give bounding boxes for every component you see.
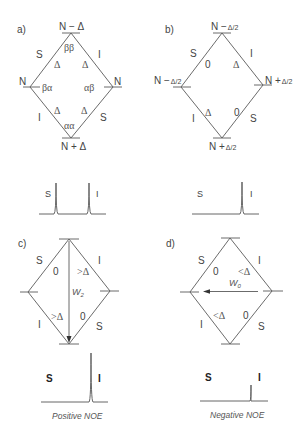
- peak-label-s: S: [205, 372, 212, 383]
- caption-positive-noe: Positive NOE: [52, 411, 103, 421]
- panel-c: c) W2 S I I S 0 >Δ >Δ 0 S I Positive NOE: [18, 238, 119, 421]
- edge-upper-left-rate: 0: [205, 59, 211, 70]
- energy-top: N −Δ/2: [211, 21, 238, 32]
- panel-a: a) N − Δ N N N + Δ ββ βα αβ αα S I I S Δ…: [17, 21, 122, 214]
- caption-negative-noe: Negative NOE: [210, 410, 265, 420]
- edge-lower-right-rate: 0: [80, 311, 86, 322]
- panel-d-label: d): [166, 238, 175, 249]
- panel-b-label: b): [165, 24, 174, 35]
- edge-lower-right-spin: S: [96, 321, 103, 332]
- edge-upper-left-spin: S: [36, 49, 43, 60]
- edge-upper-right-rate: <Δ: [238, 266, 251, 277]
- energy-top: N − Δ: [59, 21, 85, 32]
- edge-upper-right-spin: I: [98, 49, 101, 60]
- edge-lower-right-spin: S: [250, 113, 257, 124]
- peak-label-s: S: [46, 373, 53, 384]
- edge-upper-left-spin: S: [36, 255, 43, 266]
- state-left: βα: [42, 82, 53, 93]
- edge-lower-right-spin: S: [258, 321, 265, 332]
- w0-label: W0: [229, 278, 242, 289]
- peak-label-i: I: [96, 189, 99, 199]
- panel-d: d) W0 S I I S 0 <Δ <Δ 0 S I Negative NOE: [166, 238, 283, 420]
- edge-lower-left-spin: I: [38, 319, 41, 330]
- state-right: αβ: [84, 82, 94, 93]
- state-top: ββ: [64, 42, 74, 53]
- edge-lower-right-rate: 0: [234, 107, 240, 118]
- state-bottom: αα: [64, 120, 75, 131]
- energy-bottom: N +Δ/2: [209, 141, 236, 152]
- edge-upper-left-rate: 0: [53, 266, 59, 277]
- energy-left: N: [19, 76, 26, 87]
- edge-upper-right-rate: Δ: [82, 59, 89, 70]
- panel-c-label: c): [18, 238, 26, 249]
- edge-upper-right-rate: >Δ: [77, 266, 90, 277]
- peak-label-i: I: [98, 373, 101, 384]
- edge-lower-right-rate: Δ: [81, 105, 88, 116]
- edge-upper-right-rate: Δ: [233, 59, 240, 70]
- noe-energy-level-figure: a) N − Δ N N N + Δ ββ βα αβ αα S I I S Δ…: [0, 0, 300, 440]
- energy-right: N +Δ/2: [265, 75, 292, 86]
- peak-label-s: S: [45, 189, 51, 199]
- edge-lower-left-spin: I: [38, 112, 41, 123]
- spectrum-b: S I: [192, 182, 259, 214]
- spectrum-c: S I Positive NOE: [41, 353, 108, 421]
- edge-lower-right-spin: S: [100, 112, 107, 123]
- w2-label: W2: [72, 287, 85, 298]
- spectrum-d: S I Negative NOE: [200, 372, 268, 420]
- edge-lower-left-rate: <Δ: [213, 310, 226, 321]
- panel-b: b) N −Δ/2 N −Δ/2 N +Δ/2 N +Δ/2 S I I S 0…: [154, 21, 292, 214]
- edge-upper-right-spin: I: [250, 48, 253, 59]
- edge-upper-left-spin: S: [190, 48, 197, 59]
- edge-lower-left-spin: I: [192, 113, 195, 124]
- spectrum-a: S I: [39, 183, 106, 214]
- edge-upper-left-spin: S: [198, 255, 205, 266]
- peak-label-i: I: [258, 372, 261, 383]
- edge-upper-right-spin: I: [258, 255, 261, 266]
- panel-a-label: a): [17, 24, 26, 35]
- edge-lower-left-rate: >Δ: [51, 311, 64, 322]
- edge-lower-left-rate: Δ: [205, 107, 212, 118]
- edge-upper-left-rate: 0: [213, 266, 219, 277]
- edge-lower-left-rate: Δ: [54, 105, 61, 116]
- peak-label-s: S: [197, 189, 203, 199]
- peak-label-i: I: [250, 189, 253, 199]
- edge-lower-right-rate: 0: [243, 310, 249, 321]
- spectrum-trace: [200, 385, 268, 401]
- arrow-left-icon: [203, 289, 210, 294]
- edge-lower-left-spin: I: [200, 319, 203, 330]
- energy-right: N: [114, 76, 121, 87]
- energy-left: N −Δ/2: [154, 75, 181, 86]
- edge-upper-right-spin: I: [98, 255, 101, 266]
- edge-upper-left-rate: Δ: [54, 59, 61, 70]
- energy-bottom: N + Δ: [61, 141, 87, 152]
